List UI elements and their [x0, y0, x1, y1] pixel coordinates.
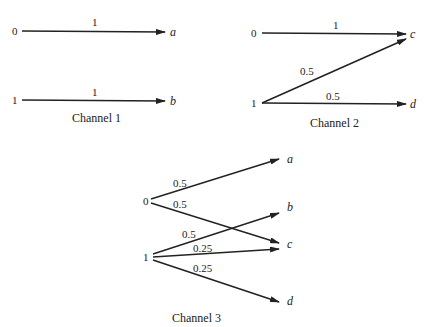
- ch3-prob-1-c: 0.25: [193, 242, 213, 254]
- ch3-prob-1-d: 0.25: [193, 262, 213, 274]
- ch1-output-a: a: [170, 25, 176, 39]
- ch3-edge-0-c: [151, 203, 279, 243]
- ch3-edge-1-d: [153, 260, 279, 302]
- ch3-output-b: b: [287, 200, 293, 214]
- ch1-edge-1-b: [22, 100, 165, 101]
- ch2-caption: Channel 2: [310, 116, 359, 130]
- ch2-output-c: c: [410, 27, 416, 41]
- channel-2: 0 1 1 0.5 0.5 c d Channel 2: [251, 19, 417, 130]
- ch3-prob-0-a: 0.5: [173, 177, 187, 189]
- ch1-prob-1-b: 1: [92, 86, 98, 98]
- channel-diagrams: 0 1 1 1 a b Channel 1 0 1 1 0.5 0.5 c d …: [0, 0, 428, 327]
- ch1-input-0: 0: [12, 25, 18, 37]
- ch3-edge-1-b: [153, 213, 279, 254]
- ch2-input-1: 1: [251, 97, 257, 109]
- ch3-caption: Channel 3: [172, 311, 221, 325]
- ch3-output-a: a: [287, 152, 293, 166]
- ch3-edge-1-c: [153, 249, 279, 257]
- channel-3: 0 1 0.5 0.5 0.5 0.25 0.25 a b c d Channe…: [143, 152, 294, 325]
- ch2-prob-1-d: 0.5: [326, 90, 340, 102]
- ch1-output-b: b: [170, 94, 176, 108]
- ch2-output-d: d: [410, 97, 417, 111]
- ch1-caption: Channel 1: [72, 111, 121, 125]
- ch2-edge-1-d: [262, 103, 406, 104]
- ch3-prob-0-c: 0.5: [173, 198, 187, 210]
- ch2-prob-0-c: 1: [333, 19, 339, 31]
- ch2-prob-1-c: 0.5: [300, 65, 314, 77]
- ch2-edge-0-c: [262, 33, 406, 34]
- ch3-prob-1-b: 0.5: [182, 228, 196, 240]
- ch3-input-0: 0: [143, 195, 149, 207]
- ch2-input-0: 0: [251, 27, 257, 39]
- ch1-edge-0-a: [22, 31, 165, 32]
- channel-1: 0 1 1 1 a b Channel 1: [12, 16, 176, 125]
- ch3-input-1: 1: [143, 251, 149, 263]
- ch1-prob-0-a: 1: [92, 16, 98, 28]
- ch3-output-c: c: [287, 237, 293, 251]
- ch3-edge-0-a: [151, 159, 279, 199]
- ch1-input-1: 1: [12, 94, 18, 106]
- ch3-output-d: d: [287, 294, 294, 308]
